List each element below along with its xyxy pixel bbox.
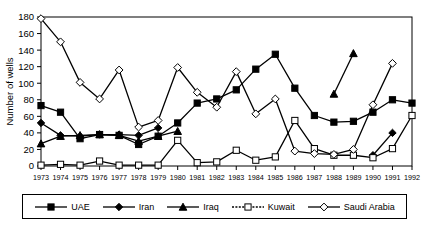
y-axis-tick-label: 160 (18, 28, 34, 39)
legend-item-label: UAE (71, 202, 90, 212)
series-uae (38, 51, 415, 147)
x-axis-tick-label: 1984 (248, 173, 264, 182)
x-axis-tick-label: 1991 (384, 173, 400, 182)
data-point-marker (214, 96, 220, 102)
data-point-marker (409, 100, 415, 106)
series-kuwait (38, 112, 415, 168)
chart-axis-title: Number of wells (4, 57, 15, 125)
data-point-marker (291, 147, 299, 155)
x-axis-tick-label: 1989 (345, 173, 361, 182)
x-axis-tick-label: 1982 (209, 173, 225, 182)
legend-item-label: Saudi Arabia (344, 202, 395, 212)
data-point-marker (272, 154, 278, 160)
x-axis-tick-label: 1980 (170, 173, 186, 182)
data-point-marker (292, 117, 298, 123)
data-point-marker (389, 146, 395, 152)
data-point-marker (272, 51, 278, 57)
y-axis-tick-label: 0 (29, 160, 34, 171)
legend-marker-filled-diamond-icon (102, 201, 136, 213)
x-axis-tick-label: 1978 (131, 173, 147, 182)
y-axis-tick-label: 80 (23, 94, 34, 105)
legend-item-iraq[interactable]: Iraq (166, 201, 219, 213)
series-iran (37, 119, 396, 159)
x-axis-tick-label: 1983 (228, 173, 244, 182)
legend-item-iran[interactable]: Iran (102, 201, 155, 213)
data-point-marker (350, 118, 356, 124)
legend-marker-glyph (245, 203, 251, 209)
legend-marker-open-square-icon (231, 201, 265, 213)
data-point-marker (57, 161, 63, 167)
data-point-marker (389, 59, 397, 67)
x-axis-tick-label: 1981 (189, 173, 205, 182)
x-axis-tick-label: 1988 (326, 173, 342, 182)
legend-marker-open-diamond-icon (307, 201, 341, 213)
data-point-marker (175, 137, 181, 143)
legend-item-label: Kuwait (268, 202, 295, 212)
data-point-marker (174, 127, 182, 134)
y-axis-tick-label: 140 (18, 45, 34, 56)
legend-marker-glyph (115, 203, 122, 210)
y-axis-tick-label: 40 (23, 127, 34, 138)
data-point-marker (292, 85, 298, 91)
chart-legend: UAEIranIraqKuwaitSaudi Arabia (22, 194, 407, 219)
data-point-marker (350, 50, 358, 57)
data-point-marker (37, 119, 44, 126)
legend-marker-filled-triangle-icon (166, 201, 200, 213)
y-axis-tick-label: 60 (23, 111, 34, 122)
data-point-marker (369, 101, 377, 109)
y-axis-tick-label: 20 (23, 144, 34, 155)
data-point-marker (233, 87, 239, 93)
data-point-marker (38, 102, 44, 108)
data-point-marker (136, 162, 142, 168)
data-point-marker (77, 162, 83, 168)
chart-series-layer (37, 15, 415, 169)
x-axis-tick-label: 1976 (92, 173, 108, 182)
data-point-marker (37, 140, 45, 147)
x-axis-tick-label: 1977 (111, 173, 127, 182)
legend-marker-glyph (48, 203, 54, 209)
data-point-marker (175, 120, 181, 126)
series-line (41, 19, 392, 155)
x-axis-tick-label: 1986 (287, 173, 303, 182)
x-axis-tick-label: 1990 (365, 173, 381, 182)
legend-marker-glyph (320, 203, 328, 211)
y-axis-tick-label: 180 (18, 11, 34, 22)
legend-item-uae[interactable]: UAE (34, 201, 90, 213)
data-point-marker (154, 124, 161, 131)
data-point-marker (253, 66, 259, 72)
y-axis-tick-label: 100 (18, 78, 34, 89)
data-point-marker (38, 162, 44, 168)
data-point-marker (389, 97, 395, 103)
data-point-marker (115, 66, 123, 74)
data-point-marker (233, 147, 239, 153)
x-axis-tick-label: 1985 (267, 173, 283, 182)
data-point-marker (155, 162, 161, 168)
x-axis-tick-label: 1979 (150, 173, 166, 182)
series-line (334, 53, 354, 94)
x-axis-tick-label: 1987 (306, 173, 322, 182)
chart-plot-area: 0204060801001201401601801973197419751976… (0, 0, 431, 227)
data-point-marker (116, 162, 122, 168)
x-axis-tick-label: 1974 (53, 173, 69, 182)
legend-item-label: Iran (139, 202, 155, 212)
legend-item-kuwait[interactable]: Kuwait (231, 201, 295, 213)
x-axis-tick-label: 1992 (404, 173, 420, 182)
data-point-marker (214, 159, 220, 165)
data-point-marker (194, 160, 200, 166)
data-point-marker (331, 119, 337, 125)
data-point-marker (311, 112, 317, 118)
data-point-marker (253, 157, 259, 163)
legend-item-label: Iraq (203, 202, 219, 212)
data-point-marker (370, 155, 376, 161)
legend-marker-filled-square-icon (34, 201, 68, 213)
line-chart: 0204060801001201401601801973197419751976… (0, 0, 431, 227)
data-point-marker (135, 123, 143, 131)
x-axis-tick-label: 1973 (33, 173, 49, 182)
legend-item-saudi-arabia[interactable]: Saudi Arabia (307, 201, 395, 213)
data-point-marker (57, 109, 63, 115)
y-axis-title: Number of wells (4, 57, 15, 125)
data-point-marker (330, 90, 338, 97)
data-point-marker (194, 100, 200, 106)
y-axis-tick-label: 120 (18, 61, 34, 72)
x-axis-tick-label: 1975 (72, 173, 88, 182)
